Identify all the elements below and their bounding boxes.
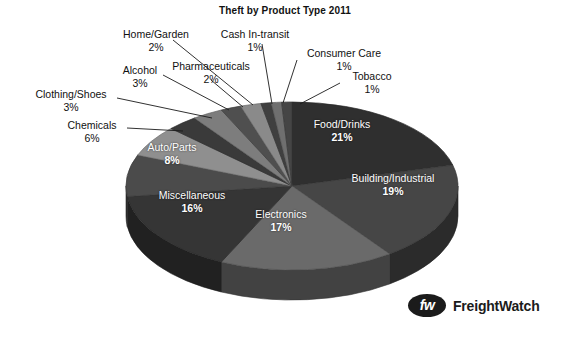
slice-label-building-industrial-name: Building/Industrial (330, 172, 456, 185)
slice-label-chemicals-pct: 6% (57, 132, 127, 145)
slice-label-pharmaceuticals-pct: 2% (157, 73, 265, 86)
leader-line-clothing-shoes (117, 98, 212, 118)
slice-label-home-garden-name: Home/Garden (110, 28, 202, 41)
freightwatch-mark-text: fw (420, 298, 435, 313)
pie-chart-figure: Theft by Product Type 2011 Home/Garden 2… (0, 0, 570, 340)
slice-label-building-industrial: Building/Industrial 19% (330, 172, 456, 198)
slice-label-tobacco-pct: 1% (341, 83, 403, 96)
slice-label-clothing-shoes-name: Clothing/Shoes (24, 88, 118, 101)
leader-line-tobacco (300, 83, 340, 104)
slice-label-food-drinks: Food/Drinks 21% (296, 118, 388, 144)
slice-label-home-garden-pct: 2% (110, 41, 202, 54)
slice-label-chemicals-name: Chemicals (57, 119, 127, 132)
slice-label-electronics-pct: 17% (240, 221, 322, 234)
slice-label-food-drinks-pct: 21% (296, 131, 388, 144)
slice-label-clothing-shoes: Clothing/Shoes 3% (24, 88, 118, 113)
slice-label-electronics: Electronics 17% (240, 208, 322, 234)
slice-label-tobacco: Tobacco 1% (341, 70, 403, 95)
slice-label-building-industrial-pct: 19% (330, 185, 456, 198)
slice-label-chemicals: Chemicals 6% (57, 119, 127, 144)
slice-label-food-drinks-name: Food/Drinks (296, 118, 388, 131)
slice-label-cash-in-transit-name: Cash In-transit (205, 28, 305, 41)
slice-label-miscellaneous-name: Miscellaneous (140, 189, 244, 202)
slice-label-alcohol-pct: 3% (112, 77, 168, 90)
freightwatch-wordmark: FreightWatch (453, 298, 540, 314)
slice-label-home-garden: Home/Garden 2% (110, 28, 202, 53)
freightwatch-logo: fw FreightWatch (408, 294, 540, 317)
slice-label-consumer-care: Consumer Care 1% (292, 47, 396, 72)
slice-label-pharmaceuticals-name: Pharmaceuticals (157, 60, 265, 73)
slice-label-consumer-care-name: Consumer Care (292, 47, 396, 60)
slice-label-miscellaneous-pct: 16% (140, 202, 244, 215)
slice-label-cash-in-transit: Cash In-transit 1% (205, 28, 305, 53)
slice-label-auto-parts-pct: 8% (133, 154, 211, 167)
slice-label-clothing-shoes-pct: 3% (24, 101, 118, 114)
slice-label-pharmaceuticals: Pharmaceuticals 2% (157, 60, 265, 85)
slice-label-miscellaneous: Miscellaneous 16% (140, 189, 244, 215)
slice-label-cash-in-transit-pct: 1% (205, 41, 305, 54)
freightwatch-mark-icon: fw (408, 294, 446, 317)
slice-label-alcohol-name: Alcohol (112, 64, 168, 77)
slice-label-electronics-name: Electronics (240, 208, 322, 221)
slice-label-tobacco-name: Tobacco (341, 70, 403, 83)
slice-label-auto-parts: Auto/Parts 8% (133, 141, 211, 167)
slice-label-alcohol: Alcohol 3% (112, 64, 168, 89)
slice-label-auto-parts-name: Auto/Parts (133, 141, 211, 154)
